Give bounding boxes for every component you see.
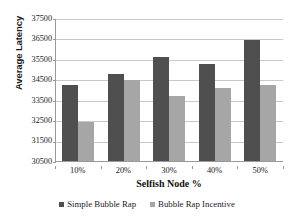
bar-chart: Average Latency 305003150032500335003450… — [0, 0, 294, 216]
bars-layer — [56, 19, 283, 161]
bar-group — [102, 19, 148, 161]
bar — [62, 85, 78, 161]
x-axis-tick-label: 40% — [193, 166, 237, 176]
bar — [169, 96, 185, 161]
bar — [260, 85, 276, 161]
chart-legend: Simple Bubble RapBubble Rap Incentive — [0, 197, 294, 211]
bar — [108, 74, 124, 161]
bar — [78, 122, 94, 161]
y-axis-tick-label: 33500 — [18, 97, 52, 105]
legend-item[interactable]: Bubble Rap Incentive — [150, 199, 235, 209]
y-axis-tick-label: 30500 — [18, 158, 52, 166]
legend-item[interactable]: Simple Bubble Rap — [59, 199, 136, 209]
x-axis-tickmark — [283, 166, 284, 169]
y-axis-tick-label: 32500 — [18, 117, 52, 125]
bar — [124, 80, 140, 161]
bar-group — [56, 19, 102, 161]
bar-group — [193, 19, 239, 161]
bar — [244, 40, 260, 161]
bar — [153, 57, 169, 161]
gridline — [56, 162, 283, 163]
y-axis-tick-label: 34500 — [18, 76, 52, 84]
y-axis-tick-labels: 3050031500325003350034500355003650037500 — [18, 0, 52, 216]
x-axis-title: Selfish Node % — [55, 178, 283, 190]
x-axis-tick-label: 50% — [238, 166, 282, 176]
bar — [215, 88, 231, 161]
y-axis-tick-label: 31500 — [18, 137, 52, 145]
x-axis-tick-label: 30% — [147, 166, 191, 176]
legend-label: Bubble Rap Incentive — [158, 199, 235, 209]
bar-group — [238, 19, 284, 161]
y-axis-tick-label: 37500 — [18, 15, 52, 23]
legend-swatch-light — [150, 202, 155, 207]
legend-swatch-dark — [59, 202, 64, 207]
x-axis-tick-labels: 10%20%30%40%50% — [55, 166, 283, 178]
bar — [199, 64, 215, 161]
plot-area — [55, 19, 283, 162]
y-axis-tickmark — [53, 162, 56, 163]
x-axis-tick-label: 10% — [56, 166, 100, 176]
y-axis-tick-label: 36500 — [18, 35, 52, 43]
legend-label: Simple Bubble Rap — [67, 199, 136, 209]
bar-group — [147, 19, 193, 161]
x-axis-tick-label: 20% — [101, 166, 145, 176]
y-axis-tick-label: 35500 — [18, 56, 52, 64]
